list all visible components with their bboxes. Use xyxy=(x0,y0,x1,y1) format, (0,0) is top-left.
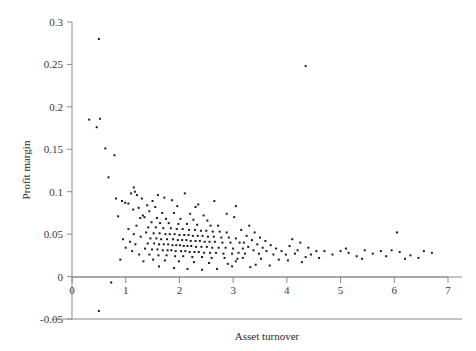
data-point xyxy=(205,230,207,232)
data-point xyxy=(287,259,289,261)
y-tick-label: 0.3 xyxy=(49,16,63,28)
data-point xyxy=(206,246,208,248)
data-point xyxy=(184,250,186,252)
data-point xyxy=(163,197,165,199)
data-point xyxy=(189,213,191,215)
data-point xyxy=(224,257,226,259)
data-point xyxy=(113,154,115,156)
y-tick-label: 0.1 xyxy=(49,186,63,198)
data-point xyxy=(391,249,393,251)
data-point xyxy=(131,250,133,252)
data-point xyxy=(182,228,184,230)
data-point xyxy=(151,221,153,223)
data-point xyxy=(169,233,171,235)
data-point xyxy=(104,147,106,149)
data-point xyxy=(173,267,175,269)
data-point xyxy=(186,223,188,225)
data-point xyxy=(162,249,164,251)
data-point xyxy=(207,236,209,238)
data-point xyxy=(185,239,187,241)
data-point xyxy=(191,256,193,258)
data-point xyxy=(152,259,154,261)
data-point xyxy=(159,232,161,234)
data-point xyxy=(198,251,200,253)
data-point xyxy=(213,236,215,238)
data-point xyxy=(213,200,215,202)
data-point xyxy=(148,210,150,212)
data-point xyxy=(159,222,161,224)
data-point xyxy=(210,225,212,227)
plot-axes xyxy=(52,22,462,319)
data-point xyxy=(221,242,223,244)
x-tick-label: 5 xyxy=(338,284,344,296)
data-point xyxy=(119,259,121,261)
data-point xyxy=(153,242,155,244)
y-tick-label: -0.05 xyxy=(40,313,63,325)
data-point xyxy=(195,246,197,248)
data-point xyxy=(372,253,374,255)
data-point xyxy=(177,239,179,241)
data-point xyxy=(138,254,140,256)
data-point xyxy=(315,250,317,252)
data-point xyxy=(184,192,186,194)
data-point xyxy=(190,245,192,247)
y-tick-label: 0.25 xyxy=(44,58,64,70)
data-point xyxy=(175,244,177,246)
data-point xyxy=(177,223,179,225)
data-point xyxy=(265,250,267,252)
data-point xyxy=(165,218,167,220)
data-point xyxy=(214,241,216,243)
data-point xyxy=(149,237,151,239)
x-tick-label: 2 xyxy=(177,284,183,296)
y-tick-label: 0.15 xyxy=(44,143,64,155)
data-point xyxy=(140,236,142,238)
data-point xyxy=(146,204,148,206)
scatter-plot-figure: -0.0500.050.10.150.20.250.3 01234567 Ass… xyxy=(0,0,476,351)
data-point xyxy=(194,229,196,231)
data-point xyxy=(289,245,291,247)
data-point xyxy=(96,126,98,128)
data-point xyxy=(179,244,181,246)
data-point xyxy=(175,250,177,252)
data-point xyxy=(259,237,261,239)
data-point xyxy=(197,235,199,237)
data-point xyxy=(225,247,227,249)
data-point xyxy=(148,254,150,256)
data-point xyxy=(176,205,178,207)
data-point xyxy=(136,194,138,196)
data-point xyxy=(242,248,244,250)
data-point xyxy=(171,199,173,201)
data-point xyxy=(170,249,172,251)
data-point xyxy=(160,238,162,240)
data-point xyxy=(171,244,173,246)
data-point xyxy=(340,250,342,252)
data-point xyxy=(180,218,182,220)
data-point xyxy=(130,192,132,194)
data-point xyxy=(141,198,143,200)
x-axis-title: Asset turnover xyxy=(235,330,300,342)
data-point xyxy=(124,202,126,204)
data-point xyxy=(98,310,100,312)
data-point xyxy=(155,237,157,239)
data-point xyxy=(254,231,256,233)
data-point xyxy=(200,230,202,232)
data-point xyxy=(172,238,174,240)
data-point xyxy=(218,247,220,249)
data-point xyxy=(127,203,129,205)
y-tick-label: 0 xyxy=(58,271,64,283)
data-point xyxy=(200,246,202,248)
x-axis-ticks: 01234567 xyxy=(69,277,451,296)
data-point xyxy=(193,261,195,263)
data-point xyxy=(204,241,206,243)
data-point xyxy=(345,248,347,250)
data-point xyxy=(202,235,204,237)
data-point xyxy=(155,226,157,228)
data-point xyxy=(158,243,160,245)
y-axis-title: Profit margin xyxy=(20,140,32,199)
data-point xyxy=(206,220,208,222)
data-point xyxy=(166,238,168,240)
data-point xyxy=(158,265,160,267)
data-point xyxy=(227,263,229,265)
data-point xyxy=(323,250,325,252)
data-point xyxy=(164,259,166,261)
